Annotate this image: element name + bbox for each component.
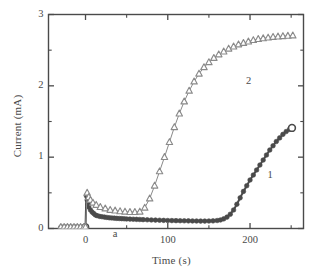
y-tick-label: 3 [32, 8, 44, 19]
y-tick-label: 2 [32, 79, 44, 90]
series-annotation-a: a [113, 228, 118, 239]
x-tick-label: 0 [77, 234, 95, 245]
y-tick-label: 0 [32, 222, 44, 233]
series-annotation-1: 1 [267, 169, 272, 180]
x-tick-label: 100 [159, 234, 177, 245]
series-annotation-2: 2 [246, 75, 251, 86]
y-tick-label: 1 [32, 150, 44, 161]
x-tick-label: 200 [241, 234, 259, 245]
x-axis-title: Time (s) [152, 254, 191, 266]
chart-figure: Current (mA) Time (s) 01002000123a12 [0, 0, 321, 276]
y-axis-title: Current (mA) [11, 82, 23, 170]
